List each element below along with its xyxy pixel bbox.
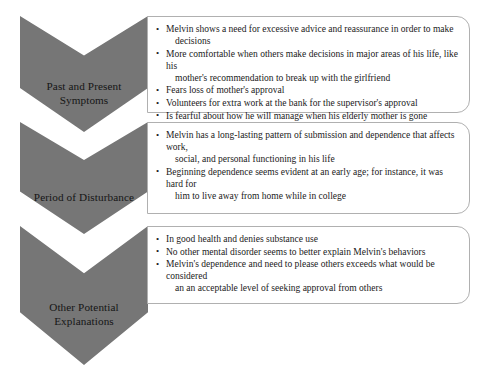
list-item: Beginning dependence seems evident at an…	[155, 166, 459, 202]
bullet-text: Volunteers for extra work at the bank fo…	[166, 98, 418, 108]
bullet-text: More comfortable when others make decisi…	[166, 49, 458, 71]
list-item: Melvin has a long-lasting pattern of sub…	[155, 129, 459, 165]
bullet-text-cont: social, and personal functioning in his …	[166, 153, 459, 165]
chevron-process-diagram: Past and Present Symptoms Melvin shows a…	[0, 0, 481, 380]
bullet-text: Melvin's dependence and need to please o…	[166, 259, 435, 281]
chevron-other-potential-explanations[interactable]: Other Potential Explanations	[20, 226, 148, 365]
content-box-period-of-disturbance: Melvin has a long-lasting pattern of sub…	[147, 122, 470, 214]
list-item: Fears loss of mother's approval	[155, 84, 459, 96]
chevron-label-1: Past and Present Symptoms	[20, 79, 148, 107]
bullet-text: Beginning dependence seems evident at an…	[166, 167, 443, 189]
chevron-label-1-line2: Symptoms	[20, 93, 148, 107]
bullet-text: In good health and denies substance use	[166, 234, 318, 244]
chevron-label-2: Period of Disturbance	[20, 190, 148, 204]
bullet-list-3: In good health and denies substance use …	[155, 233, 459, 294]
list-item: In good health and denies substance use	[155, 233, 459, 245]
bullet-text-cont: decisions	[166, 35, 459, 47]
chevron-shape-icon	[20, 226, 148, 365]
chevron-label-1-line1: Past and Present	[20, 79, 148, 93]
bullet-text-cont: an an acceptable level of seeking approv…	[166, 282, 459, 294]
list-item: No other mental disorder seems to better…	[155, 246, 459, 258]
chevron-label-3: Other Potential Explanations	[20, 300, 148, 328]
chevron-past-and-present-symptoms[interactable]: Past and Present Symptoms	[20, 16, 148, 132]
bullet-text-cont: mother's recommendation to break up with…	[166, 72, 459, 84]
chevron-period-of-disturbance[interactable]: Period of Disturbance	[20, 122, 148, 234]
content-box-past-and-present-symptoms: Melvin shows a need for excessive advice…	[147, 16, 470, 113]
list-item: Melvin shows a need for excessive advice…	[155, 23, 459, 47]
chevron-label-3-line2: Explanations	[20, 314, 148, 328]
bullet-list-2: Melvin has a long-lasting pattern of sub…	[155, 129, 459, 202]
bullet-text-cont: him to live away from home while in coll…	[166, 190, 459, 202]
bullet-text: Fears loss of mother's approval	[166, 85, 284, 95]
chevron-shape-icon	[20, 16, 148, 132]
chevron-shape-icon	[20, 122, 148, 234]
content-box-other-potential-explanations: In good health and denies substance use …	[147, 226, 470, 304]
list-item: Volunteers for extra work at the bank fo…	[155, 97, 459, 109]
bullet-text: Melvin shows a need for excessive advice…	[166, 24, 454, 34]
bullet-text: Melvin has a long-lasting pattern of sub…	[166, 130, 454, 152]
list-item: Melvin's dependence and need to please o…	[155, 258, 459, 294]
chevron-label-3-line1: Other Potential	[20, 300, 148, 314]
list-item: Is fearful about how he will manage when…	[155, 110, 459, 122]
list-item: More comfortable when others make decisi…	[155, 48, 459, 84]
chevron-label-2-line1: Period of Disturbance	[20, 190, 148, 204]
bullet-text: Is fearful about how he will manage when…	[166, 111, 427, 121]
bullet-list-1: Melvin shows a need for excessive advice…	[155, 23, 459, 122]
bullet-text: No other mental disorder seems to better…	[166, 247, 425, 257]
